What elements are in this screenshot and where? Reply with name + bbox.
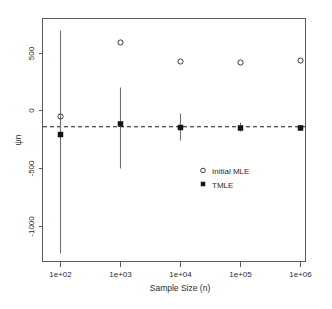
legend-marker-open-circle-icon (201, 168, 206, 173)
x-tick-label: 1e+02 (49, 270, 72, 279)
legend-label-tmle: TMLE (212, 181, 233, 190)
x-tick-label: 1e+04 (169, 270, 192, 279)
data-point-tmle (178, 125, 183, 130)
legend-marker-filled-square-icon (201, 182, 205, 186)
x-axis-ticks (61, 262, 301, 267)
data-point-initial-mle (238, 60, 243, 65)
y-tick-label: 0 (27, 108, 36, 113)
plot-frame (43, 19, 306, 262)
data-point-tmle (298, 126, 303, 131)
y-tick-label: -500 (27, 160, 36, 177)
data-point-tmle (58, 132, 63, 137)
series-initial-mle (58, 40, 303, 119)
y-tick-label: -1000 (27, 216, 36, 237)
x-axis-title: Sample Size (n) (150, 283, 211, 293)
chart-legend: Initial MLE TMLE (201, 167, 250, 190)
x-axis-tick-labels: 1e+02 1e+03 1e+04 1e+05 1e+06 (49, 270, 312, 279)
chart-figure: 500 0 -500 -1000 ψn 1e+02 1e+03 1e+04 1e… (0, 0, 332, 309)
data-point-tmle (118, 122, 123, 127)
x-tick-label: 1e+05 (229, 270, 252, 279)
data-point-initial-mle (118, 40, 123, 45)
legend-label-initial-mle: Initial MLE (212, 167, 249, 176)
x-tick-label: 1e+03 (109, 270, 132, 279)
data-point-initial-mle (298, 58, 303, 63)
scatter-plot-svg: 500 0 -500 -1000 ψn 1e+02 1e+03 1e+04 1e… (0, 0, 332, 309)
data-point-initial-mle (178, 59, 183, 64)
x-tick-label: 1e+06 (289, 270, 312, 279)
data-point-tmle (238, 126, 243, 131)
y-axis-tick-labels: 500 0 -500 -1000 (27, 46, 36, 236)
y-axis-title: ψn (13, 134, 23, 145)
y-tick-label: 500 (27, 46, 36, 60)
y-axis-ticks (39, 54, 43, 227)
